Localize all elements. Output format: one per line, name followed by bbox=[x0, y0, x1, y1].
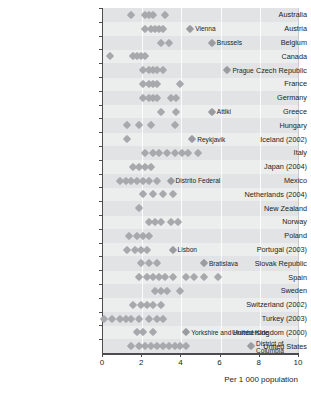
row-band bbox=[103, 215, 299, 229]
category-label: Spain bbox=[288, 274, 307, 281]
x-axis-tick bbox=[180, 353, 181, 357]
category-tick bbox=[99, 339, 103, 340]
category-label: Germany bbox=[277, 94, 307, 101]
category-label: Portugal (2003) bbox=[257, 246, 307, 253]
row-band bbox=[103, 91, 299, 105]
row-band bbox=[103, 118, 299, 132]
capital-annotation-label: Brussels bbox=[217, 39, 242, 46]
category-tick bbox=[99, 229, 103, 230]
category-tick bbox=[99, 77, 103, 78]
category-tick bbox=[99, 270, 103, 271]
category-tick bbox=[99, 49, 103, 50]
x-axis-tick bbox=[102, 353, 103, 357]
category-tick bbox=[99, 298, 103, 299]
category-label: Poland bbox=[284, 232, 307, 239]
category-label: Norway bbox=[282, 218, 307, 225]
x-axis-tick bbox=[141, 353, 142, 357]
x-axis-tick-label: 10 bbox=[288, 358, 308, 367]
capital-annotation-label: Bratislava bbox=[209, 260, 238, 267]
capital-annotation-label: Distrito Federal bbox=[176, 177, 221, 184]
category-label: Switzerland (2002) bbox=[246, 301, 307, 308]
category-label: Iceland (2002) bbox=[260, 136, 307, 143]
category-tick bbox=[99, 284, 103, 285]
x-axis-tick bbox=[298, 353, 299, 357]
category-label: France bbox=[284, 80, 307, 87]
category-label: Austria bbox=[284, 25, 307, 32]
x-axis-tick-label: 8 bbox=[249, 358, 269, 367]
category-label: Japan (2004) bbox=[264, 163, 307, 170]
category-tick bbox=[99, 325, 103, 326]
category-tick bbox=[99, 8, 103, 9]
category-label: Hungary bbox=[279, 122, 307, 129]
capital-annotation-label: Reykjavik bbox=[197, 136, 225, 143]
category-label: New Zealand bbox=[264, 205, 307, 212]
x-axis-tick-label: 6 bbox=[210, 358, 230, 367]
category-tick bbox=[99, 215, 103, 216]
x-axis-title: Per 1 000 population bbox=[102, 375, 298, 384]
row-band bbox=[103, 105, 299, 119]
category-label: Czech Republic bbox=[256, 67, 307, 74]
category-label: Canada bbox=[281, 53, 307, 60]
category-tick bbox=[99, 201, 103, 202]
grid-line bbox=[221, 8, 222, 353]
category-tick bbox=[99, 118, 103, 119]
category-tick bbox=[99, 105, 103, 106]
capital-annotation-label: Attiki bbox=[217, 108, 231, 115]
category-label: Netherlands (2004) bbox=[245, 191, 307, 198]
x-axis-tick-label: 0 bbox=[92, 358, 112, 367]
category-tick bbox=[99, 187, 103, 188]
x-axis-tick bbox=[259, 353, 260, 357]
category-label: Turkey (2003) bbox=[262, 315, 307, 322]
category-tick bbox=[99, 22, 103, 23]
category-label: Greece bbox=[283, 108, 307, 115]
x-axis-line bbox=[102, 353, 298, 355]
row-band bbox=[103, 284, 299, 298]
capital-annotation-label: Yorkshire and Humberside bbox=[191, 329, 268, 336]
capital-annotation-label: Vienna bbox=[195, 25, 215, 32]
category-label: Mexico bbox=[284, 177, 307, 184]
x-axis-tick-label: 2 bbox=[131, 358, 151, 367]
category-tick bbox=[99, 174, 103, 175]
category-label: Australia bbox=[279, 11, 307, 18]
row-band bbox=[103, 77, 299, 91]
category-tick bbox=[99, 160, 103, 161]
x-axis-tick-label: 4 bbox=[170, 358, 190, 367]
capital-annotation-label: Lisbon bbox=[178, 246, 197, 253]
category-tick bbox=[99, 36, 103, 37]
category-label: Sweden bbox=[281, 287, 307, 294]
regional-doctor-density-scatter-chart: AustraliaAustriaBelgiumCanadaCzech Repub… bbox=[0, 0, 311, 400]
category-tick bbox=[99, 146, 103, 147]
row-band bbox=[103, 36, 299, 50]
category-tick bbox=[99, 132, 103, 133]
capital-annotation-label: Prague bbox=[232, 67, 253, 74]
category-tick bbox=[99, 63, 103, 64]
category-label: Italy bbox=[294, 149, 307, 156]
category-tick bbox=[99, 91, 103, 92]
category-tick bbox=[99, 256, 103, 257]
category-tick bbox=[99, 312, 103, 313]
category-tick bbox=[99, 243, 103, 244]
category-label: Slovak Republic bbox=[255, 260, 307, 267]
x-axis-tick bbox=[220, 353, 221, 357]
category-label: Belgium bbox=[281, 39, 307, 46]
capital-annotation-label: District of Columbia bbox=[256, 340, 290, 354]
